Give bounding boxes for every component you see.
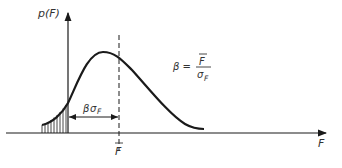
svg-text:β =: β = [172, 61, 191, 72]
svg-text:F: F [115, 145, 122, 158]
svg-text:F: F [199, 56, 205, 67]
mean-label: F [115, 143, 123, 158]
beta-sigma-label: β σ F [82, 103, 102, 116]
svg-text:σ: σ [90, 103, 97, 114]
y-axis-label: p(F) [37, 7, 60, 20]
svg-text:F: F [97, 107, 102, 116]
beta-formula: β = F σ F [172, 54, 211, 83]
svg-text:F: F [204, 74, 209, 83]
svg-text:β: β [82, 103, 90, 114]
reliability-diagram: p(F) F F β σ F β = F σ F [0, 0, 342, 168]
x-axis-label: F [318, 137, 325, 150]
svg-text:σ: σ [197, 69, 204, 80]
